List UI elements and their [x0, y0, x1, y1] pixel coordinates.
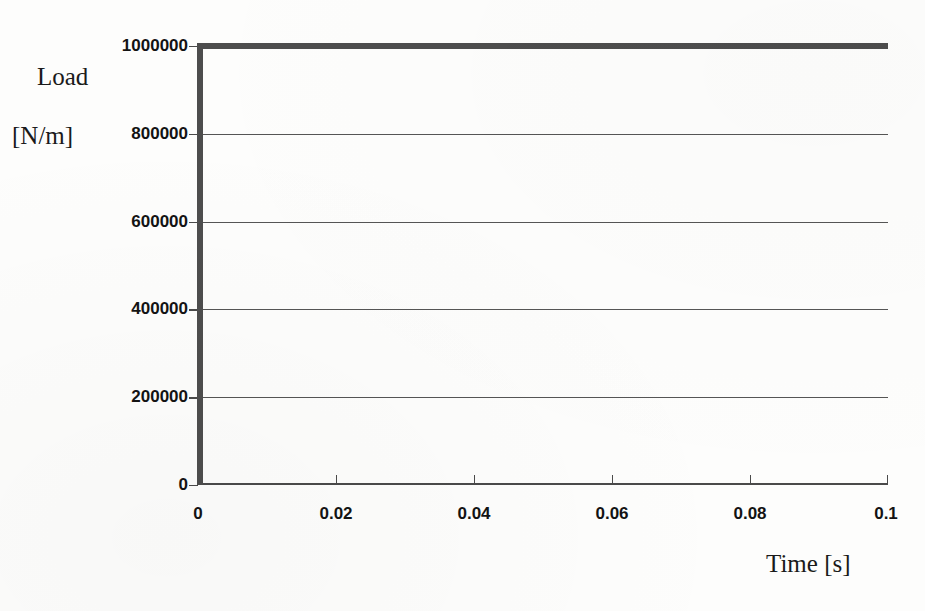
- x-tick-mark-0.08: [750, 475, 751, 485]
- x-tick-mark-0.1: [887, 475, 888, 485]
- y-tick-label-0: 0: [100, 475, 188, 495]
- y-axis-title-line1: Load: [37, 63, 88, 90]
- y-tick-label-400000: 400000: [100, 299, 188, 319]
- data-trace-step-rise: [197, 43, 203, 485]
- x-axis-title: Time [s]: [766, 549, 851, 579]
- y-tick-label-1000000: 1000000: [100, 36, 188, 56]
- x-tick-label-0.04: 0.04: [457, 504, 490, 524]
- x-tick-label-0.06: 0.06: [595, 504, 628, 524]
- y-tick-label-200000: 200000: [100, 387, 188, 407]
- x-tick-label-0.02: 0.02: [319, 504, 352, 524]
- y-axis-title-line2: [N/m]: [12, 121, 88, 151]
- y-tick-label-800000: 800000: [100, 124, 188, 144]
- gridline-800000: [198, 134, 888, 135]
- gridline-400000: [198, 309, 888, 310]
- chart-figure: Load [N/m] Time [s] 1000000 800000 60000…: [0, 0, 925, 611]
- gridline-200000: [198, 397, 888, 398]
- y-tick-label-600000: 600000: [100, 212, 188, 232]
- x-tick-mark-0.06: [612, 475, 613, 485]
- x-tick-mark-0.04: [474, 475, 475, 485]
- data-trace-plateau: [197, 43, 888, 49]
- x-tick-mark-0.02: [336, 475, 337, 485]
- x-tick-label-0: 0: [193, 504, 202, 524]
- gridline-600000: [198, 222, 888, 223]
- x-tick-label-0.1: 0.1: [874, 504, 898, 524]
- x-tick-label-0.08: 0.08: [733, 504, 766, 524]
- y-axis-title: Load [N/m]: [12, 32, 88, 209]
- plot-area: [198, 46, 888, 485]
- x-axis-line: [197, 483, 888, 485]
- y-tick-mark-0: [189, 485, 198, 486]
